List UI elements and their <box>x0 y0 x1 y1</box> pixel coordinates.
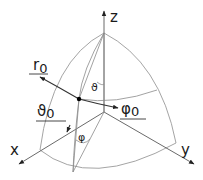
r0-label: r0 <box>33 56 47 76</box>
z-axis-label: z <box>110 8 118 26</box>
phi0-symbol: φ <box>121 100 131 118</box>
theta0-vector <box>67 125 70 132</box>
theta0-subscript: 0 <box>46 106 54 121</box>
phi0-subscript: 0 <box>131 104 139 119</box>
phi-angle-label: φ <box>78 131 85 144</box>
theta-angle-label: ϑ <box>91 81 98 94</box>
theta0-label: ϑ0 <box>37 102 55 121</box>
x-axis <box>19 112 104 164</box>
octant-bottom-arc <box>40 143 176 168</box>
x-axis-label: x <box>10 141 19 159</box>
phi0-label: φ0 <box>121 100 139 119</box>
theta-angle-arc <box>97 82 104 85</box>
point-p <box>77 97 81 101</box>
octant-right-arc <box>104 33 176 143</box>
theta0-symbol: ϑ <box>37 102 46 120</box>
spherical-coordinates-diagram: z x y r0 ϑ0 φ0 ϑ φ <box>0 0 203 180</box>
y-axis-label: y <box>181 141 190 159</box>
